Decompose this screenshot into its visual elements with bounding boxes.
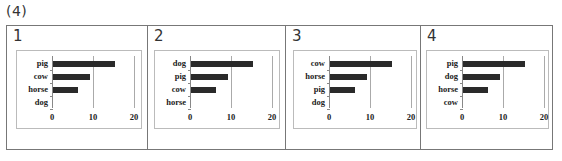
category-label: pig [428, 58, 458, 68]
bar-pig [463, 61, 525, 67]
gridline [411, 56, 412, 108]
bar-horse [53, 87, 78, 93]
option-number: 1 [13, 27, 23, 45]
x-tick-label: 10 [493, 112, 513, 122]
x-tick-label: 20 [401, 112, 421, 122]
category-label: cow [295, 58, 325, 68]
category-label: horse [18, 84, 48, 94]
category-label: dog [295, 97, 325, 107]
y-tick [188, 83, 191, 84]
y-tick [50, 70, 53, 71]
option-panel-2[interactable]: 2 01020dogpigcowhorse [147, 26, 285, 149]
bar-cow [330, 61, 392, 67]
bar-dog [463, 74, 500, 80]
y-tick [188, 96, 191, 97]
y-tick [188, 70, 191, 71]
x-tick-label: 20 [534, 112, 554, 122]
bar-chart: 01020dogpigcowhorse [154, 50, 280, 129]
y-tick [188, 109, 191, 110]
category-label: cow [156, 84, 186, 94]
gridline [134, 56, 135, 108]
category-label: cow [18, 71, 48, 81]
y-tick [460, 109, 463, 110]
bar-chart: 01020cowhorsepigdog [293, 50, 417, 129]
x-tick-label: 10 [83, 112, 103, 122]
bar-cow [191, 87, 216, 93]
x-tick-label: 10 [360, 112, 380, 122]
option-number: 2 [154, 27, 164, 45]
bar-chart: 01020pigcowhorsedog [16, 50, 142, 129]
y-tick [327, 109, 330, 110]
x-tick-label: 20 [124, 112, 144, 122]
category-label: horse [428, 84, 458, 94]
y-tick [327, 70, 330, 71]
bar-cow [53, 74, 90, 80]
bar-dog [191, 61, 253, 67]
bar-pig [53, 61, 115, 67]
gridline [272, 56, 273, 108]
category-label: pig [18, 58, 48, 68]
y-tick [327, 83, 330, 84]
bar-pig [191, 74, 228, 80]
bar-horse [463, 87, 488, 93]
category-label: dog [18, 97, 48, 107]
y-tick [327, 96, 330, 97]
option-number: 3 [292, 27, 302, 45]
x-tick-label: 0 [319, 112, 339, 122]
category-label: horse [295, 71, 325, 81]
x-tick-label: 20 [262, 112, 282, 122]
y-tick [50, 96, 53, 97]
answer-options-frame: 1 01020pigcowhorsedog 2 01020dogpigcowho… [6, 25, 553, 150]
y-tick [460, 96, 463, 97]
category-label: pig [295, 84, 325, 94]
y-tick [50, 83, 53, 84]
y-tick [460, 83, 463, 84]
y-tick [460, 70, 463, 71]
bar-horse [330, 74, 367, 80]
category-label: cow [428, 97, 458, 107]
x-tick-label: 0 [42, 112, 62, 122]
x-tick-label: 10 [221, 112, 241, 122]
category-label: horse [156, 97, 186, 107]
option-number: 4 [427, 27, 437, 45]
bar-pig [330, 87, 355, 93]
x-tick-label: 0 [180, 112, 200, 122]
gridline [544, 56, 545, 108]
x-tick-label: 0 [452, 112, 472, 122]
category-label: dog [156, 58, 186, 68]
option-panel-3[interactable]: 3 01020cowhorsepigdog [285, 26, 420, 149]
category-label: dog [428, 71, 458, 81]
bar-chart: 01020pigdoghorsecow [426, 50, 549, 129]
y-tick [50, 109, 53, 110]
category-label: pig [156, 71, 186, 81]
question-label: (4) [6, 3, 27, 19]
option-panel-4[interactable]: 4 01020pigdoghorsecow [420, 26, 552, 149]
option-panel-1[interactable]: 1 01020pigcowhorsedog [7, 26, 147, 149]
